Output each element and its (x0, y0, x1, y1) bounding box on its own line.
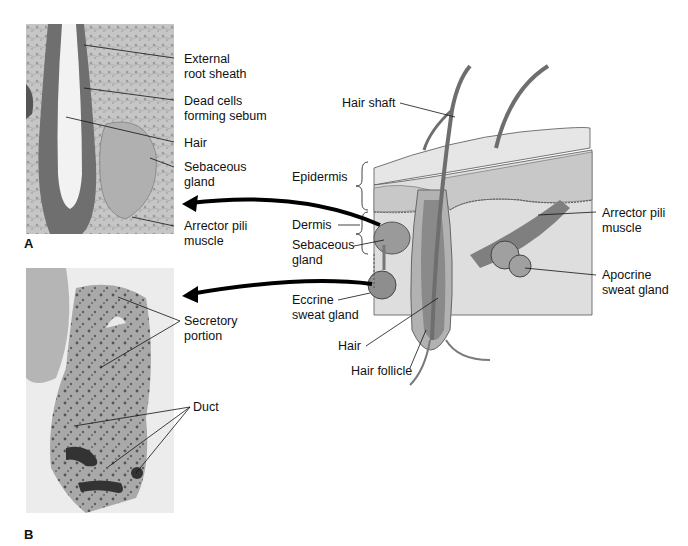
label-arrector-pili-a: Arrector pili muscle (184, 219, 247, 249)
label-apocrine-sweat-gland: Apocrine sweat gland (602, 268, 669, 298)
label-duct: Duct (193, 400, 219, 415)
label-arrector-pili-muscle: Arrector pili muscle (602, 206, 665, 236)
label-sebaceous-gland-diagram: Sebaceous gland (292, 238, 355, 268)
label-sebaceous-gland-a: Sebaceous gland (184, 160, 247, 190)
label-epidermis: Epidermis (292, 170, 348, 185)
label-external-root-sheath: External root sheath (184, 52, 247, 82)
label-eccrine-sweat-gland: Eccrine sweat gland (292, 293, 359, 323)
label-dermis: Dermis (292, 218, 332, 233)
label-hair-follicle: Hair follicle (351, 364, 412, 379)
skin-diagram (0, 0, 688, 546)
label-hair-shaft: Hair shaft (342, 96, 396, 111)
label-secretory-portion: Secretory portion (184, 314, 238, 344)
label-hair-diagram: Hair (338, 339, 361, 354)
label-hair-a: Hair (184, 136, 207, 151)
label-dead-cells-forming-sebum: Dead cells forming sebum (184, 94, 267, 124)
